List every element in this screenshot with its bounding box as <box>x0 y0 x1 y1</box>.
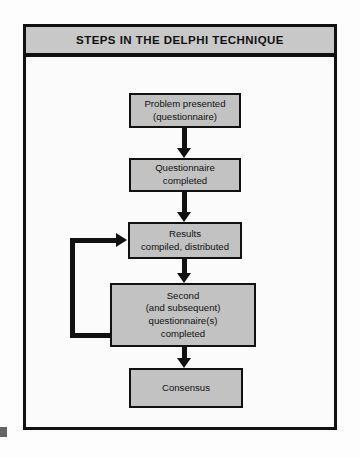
arrow-segment-left <box>70 238 75 338</box>
arrow-segment-bottom <box>70 333 114 338</box>
arrow-stem <box>182 128 187 149</box>
flow-node-text: Problem presented (questionnaire) <box>140 98 229 123</box>
arrow-head-down-icon <box>177 273 191 283</box>
flow-node-line-1: Problem presented <box>144 98 225 109</box>
flow-node-line-1: Results <box>169 228 201 239</box>
flow-node-line-1: Second <box>167 290 200 301</box>
flow-node-second-questionnaires-completed: Second (and subsequent) questionnaire(s)… <box>110 283 256 347</box>
figure-title: STEPS IN THE DELPHI TECHNIQUE <box>76 34 284 46</box>
flow-node-line-2: completed <box>163 175 207 186</box>
flow-node-text: Results compiled, distributed <box>137 228 233 253</box>
flow-node-line-1: Questionnaire <box>155 162 215 173</box>
arrow-head-down-icon <box>177 212 191 222</box>
flow-node-problem-presented: Problem presented (questionnaire) <box>129 93 241 128</box>
flow-node-line-4: completed <box>161 328 205 339</box>
arrow-segment-top <box>70 238 118 243</box>
arrow-head-down-icon <box>177 148 191 158</box>
flow-node-line-2: (questionnaire) <box>153 111 217 122</box>
arrow-head-down-icon <box>177 358 191 368</box>
flow-node-text: Questionnaire completed <box>151 162 219 187</box>
flow-node-consensus: Consensus <box>129 368 243 408</box>
flow-node-line-1: Consensus <box>162 382 210 393</box>
flow-node-results-compiled-distributed: Results compiled, distributed <box>128 222 242 259</box>
arrow-stem <box>182 192 187 213</box>
flow-node-text: Consensus <box>158 382 214 395</box>
figure-title-band: STEPS IN THE DELPHI TECHNIQUE <box>26 27 334 57</box>
flow-node-line-2: compiled, distributed <box>141 241 229 252</box>
flow-node-questionnaire-completed: Questionnaire completed <box>129 158 241 192</box>
figure-frame: STEPS IN THE DELPHI TECHNIQUE Problem pr… <box>23 24 337 430</box>
scan-artifact-mark <box>0 427 7 437</box>
arrow-head-right-icon <box>116 233 127 247</box>
arrow-stem <box>182 259 187 274</box>
flow-node-line-3: questionnaire(s) <box>149 315 218 326</box>
flow-node-line-2: (and subsequent) <box>146 302 221 313</box>
flow-node-text: Second (and subsequent) questionnaire(s)… <box>142 290 225 340</box>
flowchart-canvas: Problem presented (questionnaire) Questi… <box>26 61 334 427</box>
